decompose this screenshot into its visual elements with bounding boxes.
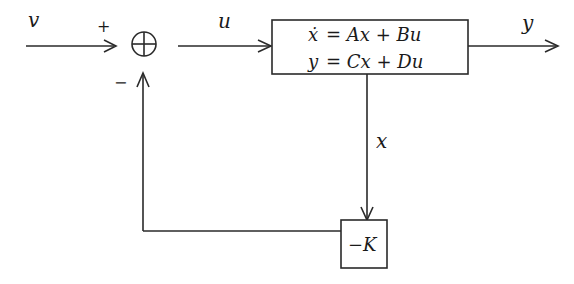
state-equation-rhs: = Ax + Bu: [326, 24, 421, 45]
block-diagram: v + − u ẋ = Ax + Bu y = Cx + Du y x −K: [0, 0, 574, 284]
state-signal-arrow: [361, 74, 373, 220]
feedback-arrow: [137, 73, 341, 231]
control-signal-arrow: [178, 40, 271, 52]
output-label-y: y: [521, 11, 534, 35]
state-equation-lhs: ẋ: [308, 24, 318, 45]
control-label-u: u: [218, 9, 231, 33]
summing-junction-icon: [132, 32, 156, 56]
input-label-v: v: [28, 8, 40, 32]
output-equation-lhs: y: [307, 51, 319, 72]
state-label-x: x: [376, 129, 387, 153]
output-arrow: [468, 40, 558, 52]
feedback-gain-label: −K: [348, 234, 378, 255]
minus-sign: −: [114, 73, 127, 92]
input-arrow: [26, 40, 116, 52]
plus-sign: +: [97, 17, 110, 36]
output-equation-rhs: = Cx + Du: [326, 51, 423, 72]
